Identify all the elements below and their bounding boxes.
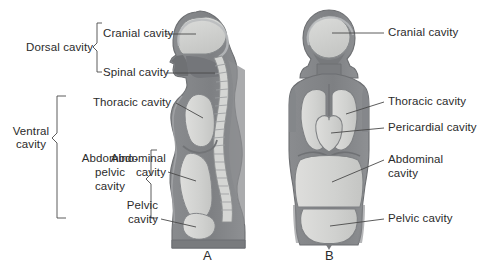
label-abdominal-cavity-b-line1: Abdominal xyxy=(388,153,443,167)
figure-b-anterior-body xyxy=(289,10,369,250)
label-pericardial-cavity-b: Pericardial cavity xyxy=(388,121,477,135)
label-pelvic-cavity-a-line2: cavity xyxy=(86,213,158,227)
label-spinal-cavity-a: Spinal cavity xyxy=(103,66,169,80)
panel-letter-b: B xyxy=(325,248,334,263)
lower-body-block-a xyxy=(172,240,245,248)
bracket-dorsal-cavity xyxy=(93,23,102,72)
label-abdominal-cavity-a-line2: cavity xyxy=(86,166,166,180)
label-thoracic-cavity-a: Thoracic cavity xyxy=(93,96,171,110)
label-pelvic-cavity-b: Pelvic cavity xyxy=(388,212,453,226)
label-abdominal-cavity-a-line1: Abdominal xyxy=(86,152,166,166)
label-cranial-cavity-a: Cranial cavity xyxy=(103,27,173,41)
cranial-cavity-fill-a xyxy=(178,17,227,54)
thoracic-cavity-fill-a xyxy=(185,94,214,146)
label-cranial-cavity-b: Cranial cavity xyxy=(388,26,458,40)
label-thoracic-cavity-b: Thoracic cavity xyxy=(388,95,466,109)
label-abdominal-cavity-b-line2: cavity xyxy=(388,167,418,181)
bracket-label-ventral-cavity-line1: Ventral xyxy=(10,125,52,139)
abdominal-cavity-fill-b xyxy=(295,156,363,208)
bracket-ventral-cavity xyxy=(52,96,66,218)
figure-a-lateral-body xyxy=(170,11,245,248)
bracket-label-dorsal-cavity: Dorsal cavity xyxy=(26,41,93,55)
bracket-label-ventral-cavity-line2: cavity xyxy=(10,138,52,152)
label-pelvic-cavity-a-line1: Pelvic xyxy=(86,199,158,213)
pelvic-cavity-fill-a xyxy=(183,213,215,239)
pelvic-cavity-fill-b xyxy=(301,209,358,244)
panel-letter-a: A xyxy=(203,248,212,263)
bracket-label-abdominopelvic-line3: cavity xyxy=(77,180,143,194)
